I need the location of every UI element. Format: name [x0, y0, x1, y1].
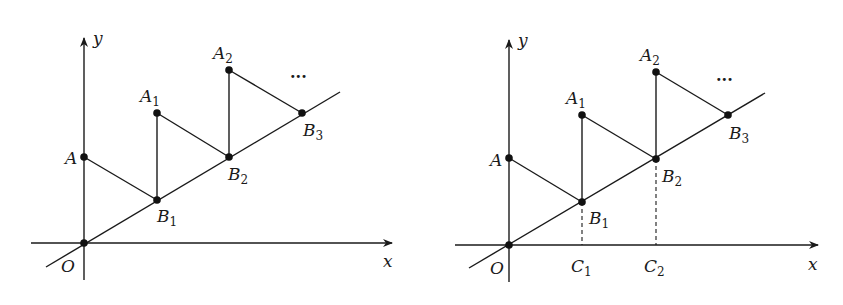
point-B2 [225, 153, 233, 161]
label-B1: B1 [588, 208, 609, 231]
x-axis-label: x [383, 251, 393, 271]
label-B3: B3 [728, 123, 749, 146]
segment-A1-B2 [582, 115, 656, 159]
figure-left: y x O A A1 A2 B1 B2 B3 ··· [31, 28, 393, 280]
oblique-line [46, 92, 340, 267]
label-A: A [488, 150, 502, 170]
point-B1 [578, 198, 586, 206]
label-O: O [61, 256, 75, 276]
point-B3 [724, 111, 732, 119]
oblique-line [469, 93, 765, 268]
continuation-ellipsis: ··· [290, 67, 307, 86]
diagram-canvas: y x O A A1 A2 B1 B2 B3 ··· y x O A A1 [0, 0, 843, 305]
label-A: A [63, 148, 77, 168]
point-A2 [225, 66, 233, 74]
point-O [80, 239, 88, 247]
label-A1: A1 [564, 88, 586, 111]
y-axis-label: y [517, 30, 528, 50]
segment-A1-B2 [157, 113, 229, 157]
label-A2: A2 [638, 45, 660, 68]
continuation-ellipsis: ··· [716, 70, 733, 89]
segment-A-B1 [509, 158, 582, 202]
label-B3: B3 [302, 120, 323, 143]
label-A1: A1 [138, 86, 160, 109]
point-O [505, 241, 513, 249]
label-C1: C1 [571, 256, 592, 279]
label-C2: C2 [644, 256, 665, 279]
point-B2 [652, 155, 660, 163]
figure-right: y x O A A1 A2 B1 B2 B3 C1 C2 ··· [455, 30, 818, 282]
point-A1 [578, 111, 586, 119]
point-A1 [153, 109, 161, 117]
point-B3 [298, 109, 306, 117]
label-B2: B2 [661, 166, 682, 189]
label-B1: B1 [156, 206, 177, 229]
y-axis-label: y [92, 28, 103, 48]
point-A2 [652, 68, 660, 76]
label-O: O [490, 258, 504, 278]
point-B1 [153, 196, 161, 204]
label-B2: B2 [227, 164, 248, 187]
segment-A-B1 [84, 157, 157, 200]
x-axis-label: x [808, 254, 818, 274]
point-A [80, 153, 88, 161]
label-A2: A2 [211, 43, 233, 66]
point-A [505, 154, 513, 162]
